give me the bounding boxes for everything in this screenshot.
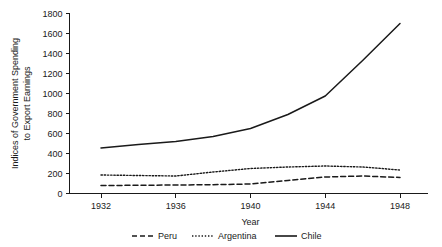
- y-tick-label: 800: [47, 109, 62, 119]
- legend-label-peru: Peru: [158, 231, 177, 241]
- y-tick-label: 400: [47, 149, 62, 159]
- chart-legend: PeruArgentinaChile: [132, 231, 322, 241]
- series-line-argentina: [101, 166, 400, 176]
- y-tick-label: 600: [47, 129, 62, 139]
- line-chart: Indices of Government Spendingto Export …: [0, 0, 442, 247]
- y-axis-ticks: 020040060080010001200140016001800: [42, 9, 69, 199]
- legend-label-chile: Chile: [301, 231, 322, 241]
- x-axis-title: Year: [241, 217, 259, 227]
- x-tick-label: 1940: [240, 201, 260, 211]
- chart-figure: Indices of Government Spendingto Export …: [0, 0, 442, 247]
- series-line-peru: [101, 176, 400, 186]
- series-line-chile: [101, 24, 400, 149]
- y-axis-title: Indices of Government Spendingto Export …: [10, 38, 32, 169]
- x-tick-label: 1932: [91, 201, 111, 211]
- x-tick-label: 1944: [315, 201, 335, 211]
- y-tick-label: 1200: [42, 69, 62, 79]
- y-tick-label: 1800: [42, 9, 62, 19]
- y-tick-label: 0: [57, 189, 62, 199]
- legend-label-argentina: Argentina: [218, 231, 257, 241]
- x-axis-title-text: Year: [241, 217, 259, 227]
- x-tick-label: 1936: [166, 201, 186, 211]
- y-tick-label: 1600: [42, 29, 62, 39]
- x-tick-label: 1948: [390, 201, 410, 211]
- y-axis-title-line: Indices of Government Spending: [10, 38, 20, 169]
- y-tick-label: 200: [47, 169, 62, 179]
- y-tick-label: 1000: [42, 89, 62, 99]
- y-tick-label: 1400: [42, 49, 62, 59]
- y-axis-title-line: to Export Earnings: [22, 66, 32, 141]
- data-series: [101, 24, 400, 186]
- axis-lines: [70, 13, 429, 194]
- x-axis-ticks: 19321936194019441948: [91, 194, 410, 211]
